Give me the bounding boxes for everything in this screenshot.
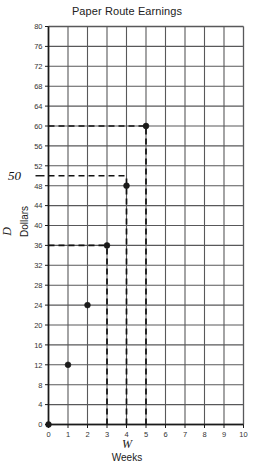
- y-value-callout-50: 50: [8, 168, 21, 184]
- y-tick-label: 12: [34, 361, 42, 370]
- x-axis-variable: W: [0, 437, 254, 452]
- y-tick-label: 8: [38, 381, 42, 390]
- y-tick-label: 48: [34, 182, 42, 191]
- chart-container: Paper Route Earnings 0481216202428323640…: [0, 0, 254, 472]
- y-axis-title: Dollars: [19, 192, 30, 252]
- grid-layer: [49, 27, 244, 425]
- y-tick-label: 24: [34, 301, 42, 310]
- y-axis-variable: D: [0, 227, 15, 236]
- y-tick-label: 80: [34, 22, 42, 31]
- y-tick-label: 64: [34, 102, 42, 111]
- data-point: [85, 302, 91, 308]
- y-axis-label-group: D Dollars: [2, 196, 42, 276]
- y-tick-label: 72: [34, 62, 42, 71]
- data-point: [65, 362, 71, 368]
- y-tick-label: 60: [34, 122, 42, 131]
- data-point: [46, 422, 52, 428]
- data-point: [124, 183, 130, 189]
- y-tick-label: 16: [34, 341, 42, 350]
- y-tick-label: 28: [34, 281, 42, 290]
- y-tick-label: 20: [34, 321, 42, 330]
- y-tick-label: 76: [34, 42, 42, 51]
- dashed-guide-lines: [36, 126, 147, 425]
- y-tick-label: 52: [34, 162, 42, 171]
- data-points: [46, 123, 149, 427]
- x-axis-title: Weeks: [0, 452, 254, 463]
- y-tick-label: 0: [38, 420, 42, 429]
- y-tick-label: 4: [38, 400, 42, 409]
- y-tick-label: 68: [34, 82, 42, 91]
- data-point: [104, 243, 110, 249]
- y-tick-label: 56: [34, 142, 42, 151]
- data-point: [143, 123, 149, 129]
